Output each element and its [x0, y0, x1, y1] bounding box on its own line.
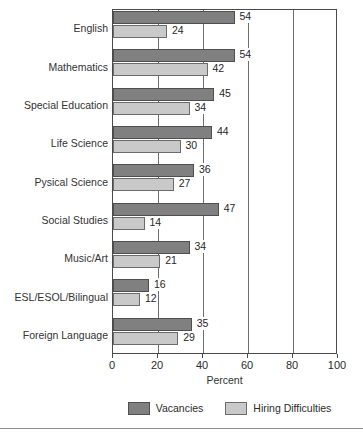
bar-vacancies — [113, 279, 149, 292]
bar-vacancies — [113, 203, 219, 216]
plot-area: 542454424534443036274714342116123529 — [112, 9, 337, 354]
chart-legend: VacanciesHiring Difficulties — [112, 398, 347, 418]
bar-vacancies — [113, 318, 192, 331]
bar-vacancies — [113, 49, 235, 62]
bar-hiring — [113, 102, 190, 115]
bar-hiring — [113, 140, 181, 153]
category-label: Foreign Language — [0, 329, 108, 341]
bar-group: 5424 — [113, 10, 336, 48]
legend-label: Hiring Difficulties — [253, 402, 331, 414]
bar-hiring — [113, 332, 178, 345]
bar-value-label: 14 — [148, 216, 163, 229]
bar-group: 4534 — [113, 87, 336, 125]
x-tick-mark — [247, 354, 248, 358]
bar-value-label: 35 — [195, 317, 210, 330]
bar-value-label: 27 — [177, 177, 192, 190]
category-label: English — [0, 22, 108, 34]
bar-group: 3627 — [113, 163, 336, 201]
bar-vacancies — [113, 88, 214, 101]
category-label: Life Science — [0, 137, 108, 149]
bar-hiring — [113, 178, 174, 191]
bar-value-label: 29 — [181, 331, 196, 344]
bar-value-label: 24 — [170, 24, 185, 37]
bar-group: 3421 — [113, 240, 336, 278]
bar-value-label: 30 — [184, 139, 199, 152]
x-tick-mark — [337, 354, 338, 358]
bar-value-label: 45 — [217, 87, 232, 100]
x-axis: 020406080100 — [112, 356, 337, 372]
x-tick-label: 20 — [151, 359, 163, 371]
bar-vacancies — [113, 241, 190, 254]
x-tick-label: 80 — [286, 359, 298, 371]
category-label: ESL/ESOL/Bilingual — [0, 291, 108, 303]
x-tick-label: 100 — [328, 359, 346, 371]
x-tick-mark — [292, 354, 293, 358]
bar-value-label: 34 — [193, 101, 208, 114]
bar-hiring — [113, 25, 167, 38]
bar-value-label: 21 — [163, 254, 178, 267]
legend-entry: Hiring Difficulties — [225, 402, 331, 415]
bar-value-label: 44 — [215, 125, 230, 138]
bar-value-label: 54 — [238, 48, 253, 61]
bar-group: 5442 — [113, 48, 336, 86]
x-tick-label: 60 — [241, 359, 253, 371]
category-label: Social Studies — [0, 214, 108, 226]
bar-hiring — [113, 63, 208, 76]
footer-divider — [0, 428, 363, 429]
bar-group: 1612 — [113, 278, 336, 316]
legend-swatch-hiring — [225, 402, 247, 415]
bar-value-label: 16 — [152, 278, 167, 291]
bar-value-label: 34 — [193, 240, 208, 253]
bar-value-label: 47 — [222, 202, 237, 215]
category-label: Special Education — [0, 99, 108, 111]
x-tick-label: 40 — [196, 359, 208, 371]
bar-hiring — [113, 217, 145, 230]
x-tick-label: 0 — [109, 359, 115, 371]
x-tick-mark — [202, 354, 203, 358]
x-tick-mark — [112, 354, 113, 358]
bar-vacancies — [113, 11, 235, 24]
category-label: Pysical Science — [0, 176, 108, 188]
bar-group: 3529 — [113, 317, 336, 355]
bar-group: 4430 — [113, 125, 336, 163]
bar-hiring — [113, 255, 160, 268]
x-tick-mark — [157, 354, 158, 358]
bar-value-label: 12 — [143, 292, 158, 305]
category-label: Mathematics — [0, 61, 108, 73]
bar-chart-figure: 542454424534443036274714342116123529 020… — [0, 0, 363, 441]
bar-hiring — [113, 293, 140, 306]
bar-group: 4714 — [113, 202, 336, 240]
bar-value-label: 42 — [211, 62, 226, 75]
bar-vacancies — [113, 126, 212, 139]
bar-vacancies — [113, 164, 194, 177]
bar-value-label: 36 — [197, 163, 212, 176]
bar-value-label: 54 — [238, 10, 253, 23]
legend-swatch-vacancies — [128, 402, 150, 415]
legend-entry: Vacancies — [128, 402, 204, 415]
category-label: Music/Art — [0, 252, 108, 264]
legend-label: Vacancies — [156, 402, 204, 414]
x-axis-title: Percent — [112, 374, 337, 386]
